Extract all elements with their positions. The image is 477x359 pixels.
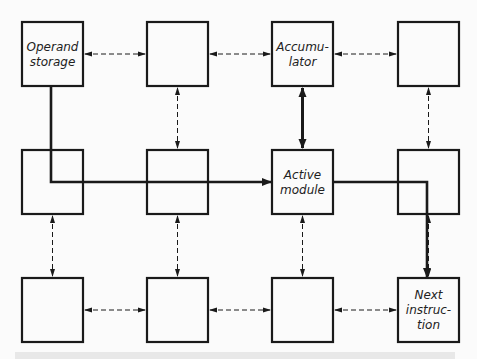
- module-box-border: [272, 278, 333, 342]
- module-box: [22, 278, 83, 342]
- module-box: [272, 278, 333, 342]
- module-box: [147, 22, 208, 86]
- module-label: Active: [283, 168, 321, 182]
- module-box: [398, 22, 459, 86]
- module-label: module: [280, 183, 325, 197]
- module-box-border: [398, 22, 459, 86]
- caption-band: [15, 352, 455, 359]
- module-label: lator: [289, 55, 318, 69]
- module-label: Accumu-: [275, 40, 329, 54]
- module-box: [147, 278, 208, 342]
- next-instruction-bold-arrow: [333, 182, 427, 277]
- module-box: Nextinstruc-tion: [398, 278, 459, 342]
- module-label: storage: [30, 55, 76, 69]
- module-box: Activemodule: [272, 150, 333, 214]
- module-label: tion: [417, 318, 440, 332]
- module-label: Operand: [27, 40, 79, 54]
- module-label: Next: [414, 288, 443, 302]
- module-array-diagram: OperandstorageAccumu-latorActivemoduleNe…: [0, 0, 477, 359]
- module-box: Operandstorage: [22, 22, 83, 86]
- module-label: instruc-: [406, 303, 451, 317]
- module-box-border: [22, 278, 83, 342]
- diagram-canvas: OperandstorageAccumu-latorActivemoduleNe…: [0, 0, 477, 359]
- module-box-border: [147, 22, 208, 86]
- module-box-border: [147, 278, 208, 342]
- module-box: Accumu-lator: [272, 22, 333, 86]
